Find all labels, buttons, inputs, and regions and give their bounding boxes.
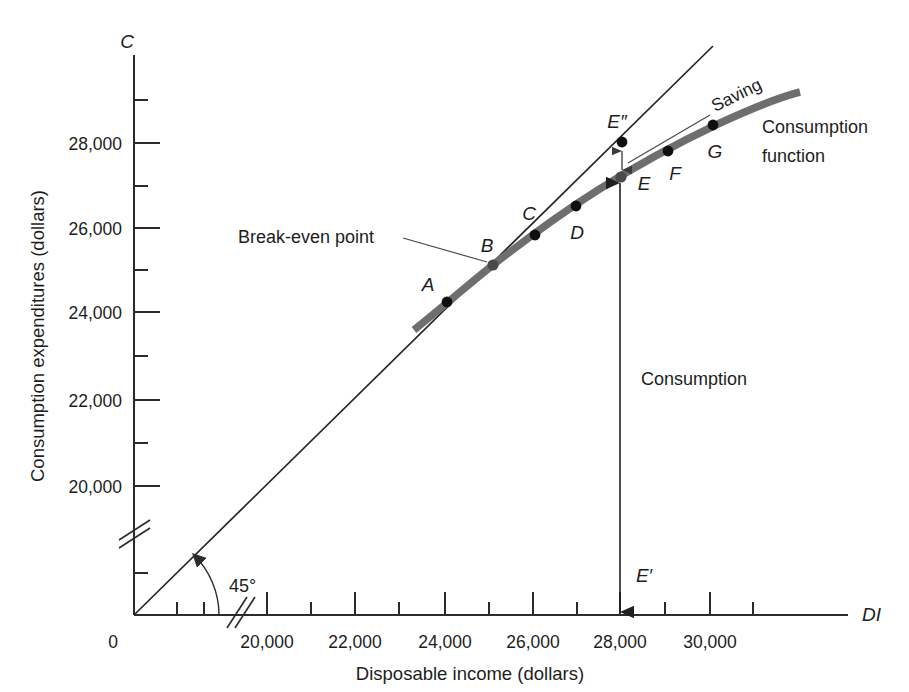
data-point-b (487, 259, 498, 270)
break-even-leader-line (403, 238, 487, 262)
y-axis-title: Consumption expenditures (dollars) (27, 190, 48, 482)
consumption-annotation: Consumption (641, 369, 747, 389)
data-point-d (571, 201, 582, 212)
point-label-b: B (481, 235, 494, 256)
data-point-g (708, 120, 719, 131)
consumption-function-label-line2: function (762, 146, 825, 166)
data-point-f (663, 146, 674, 157)
angle-annotation: 45° (229, 576, 256, 596)
y-tick-label-20000: 20,000 (68, 477, 122, 497)
chart-canvas: C 28,000 26,000 24,000 22,000 20,000 0 C… (0, 0, 909, 692)
point-label-g: G (708, 141, 723, 162)
point-label-a: A (421, 274, 435, 295)
x-tick-label-24000: 24,000 (418, 632, 472, 652)
data-point-c (530, 230, 541, 241)
point-label-c: C (522, 203, 536, 224)
point-label-e: E (638, 173, 651, 194)
y-tick-label-24000: 24,000 (68, 303, 122, 323)
point-label-d: D (570, 222, 584, 243)
x-tick-label-28000: 28,000 (593, 632, 647, 652)
data-point-e-double-prime (617, 137, 628, 148)
x-tick-label-20000: 20,000 (240, 632, 294, 652)
point-label-e-double-prime: E″ (607, 111, 628, 132)
data-point-a (442, 297, 453, 308)
angle-arc (194, 555, 219, 615)
consumption-function-label-line1: Consumption (762, 117, 868, 137)
x-tick-label-22000: 22,000 (328, 632, 382, 652)
y-axis-variable-label: C (120, 31, 134, 52)
x-axis-variable-label: DI (862, 604, 882, 625)
origin-label: 0 (108, 632, 118, 652)
x-axis-break-mark-left (227, 597, 247, 628)
y-tick-label-28000: 28,000 (68, 134, 122, 154)
point-label-f: F (669, 163, 682, 184)
break-even-point-annotation: Break-even point (238, 227, 374, 247)
point-label-e-prime: E′ (636, 565, 654, 586)
y-tick-label-26000: 26,000 (68, 219, 122, 239)
x-tick-label-26000: 26,000 (506, 632, 560, 652)
x-tick-label-30000: 30,000 (683, 632, 737, 652)
x-axis-title: Disposable income (dollars) (356, 663, 584, 684)
x-axis-break-mark-right (235, 597, 255, 628)
data-point-e (615, 171, 626, 182)
y-tick-label-22000: 22,000 (68, 391, 122, 411)
consumption-function-figure: C 28,000 26,000 24,000 22,000 20,000 0 C… (0, 0, 909, 692)
